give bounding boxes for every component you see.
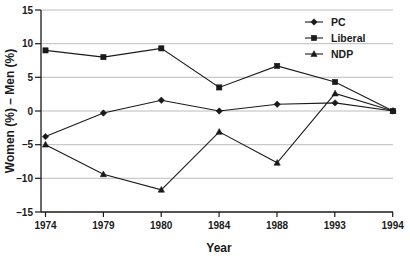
legend-item-label: NDP (331, 48, 353, 60)
y-axis-title: Women (%) – Men (%) (3, 49, 17, 173)
chart-container: 15 10 5 0 –5 –10 –15 1974 1979 1980 1984… (0, 0, 410, 259)
y-tick-label: –10 (16, 173, 33, 184)
data-point-marker (43, 48, 48, 53)
x-tick-label: 1993 (324, 220, 347, 231)
legend-marker-square-icon (311, 35, 316, 40)
x-tick-label: 1984 (208, 220, 231, 231)
data-point-marker (159, 46, 164, 51)
x-axis-title: Year (206, 241, 232, 255)
x-tick-labels: 1974 1979 1980 1984 1988 1993 1994 (34, 220, 404, 231)
legend-item-label: Liberal (331, 32, 366, 44)
y-tick-label: 10 (22, 38, 34, 49)
y-tick-label: 0 (27, 106, 33, 117)
data-point-marker (275, 63, 280, 68)
data-point-marker (332, 79, 337, 84)
y-tick-label: –15 (16, 207, 33, 218)
y-tick-labels: 15 10 5 0 –5 –10 –15 (16, 5, 33, 218)
y-tick-label: 5 (27, 72, 33, 83)
data-point-marker (217, 85, 222, 90)
x-axis-ticks (46, 212, 393, 217)
y-axis-ticks (35, 10, 41, 212)
line-chart: 15 10 5 0 –5 –10 –15 1974 1979 1980 1984… (0, 0, 410, 259)
x-tick-label: 1994 (382, 220, 405, 231)
legend-item-label: PC (331, 16, 346, 28)
y-tick-label: 15 (22, 5, 34, 16)
x-tick-label: 1979 (92, 220, 115, 231)
x-tick-label: 1988 (266, 220, 289, 231)
y-tick-label: –5 (22, 139, 34, 150)
x-tick-label: 1974 (34, 220, 57, 231)
x-tick-label: 1980 (150, 220, 173, 231)
data-point-marker (101, 55, 106, 60)
